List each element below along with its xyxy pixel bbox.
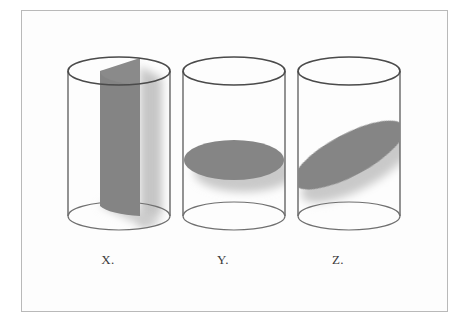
cylinder-x [68, 57, 170, 230]
cylinder-y [183, 57, 294, 230]
cylinder-label-z: Z. [318, 252, 358, 268]
cylinder-z-bottom-ellipse [298, 202, 400, 230]
cylinder-z-top-ellipse [298, 57, 400, 85]
figure-root: X. Y. Z. [0, 0, 458, 327]
cylinder-y-top-ellipse [183, 57, 285, 85]
cylinder-label-y: Y. [203, 252, 243, 268]
cylinder-label-x: X. [88, 252, 128, 268]
cylinder-y-bottom-ellipse [183, 202, 285, 230]
cylinder-y-cross-section [184, 140, 284, 180]
cylinder-x-cross-section [100, 58, 140, 216]
cylinder-z [284, 57, 421, 230]
cylinders-illustration [0, 0, 458, 327]
